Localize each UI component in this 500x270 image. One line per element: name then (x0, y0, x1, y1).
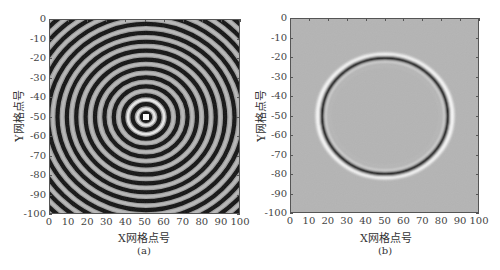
x-tick-label-b: 100 (467, 216, 491, 226)
y-tick-mark (290, 135, 293, 136)
x-tick-mark (106, 19, 107, 22)
y-tick-mark (290, 96, 293, 97)
y-tick-mark (49, 214, 52, 215)
y-tick-mark (237, 195, 240, 196)
y-tick-mark (476, 213, 479, 214)
x-tick-mark (347, 18, 348, 21)
y-tick-label-a: -20 (18, 53, 46, 63)
y-tick-mark (49, 195, 52, 196)
y-tick-mark (290, 194, 293, 195)
x-tick-mark (328, 18, 329, 21)
y-tick-mark (476, 57, 479, 58)
x-tick-mark (479, 18, 480, 21)
y-tick-mark (237, 156, 240, 157)
y-axis-label-b: Y网格点号 (252, 76, 268, 156)
wavefront-ring-image (291, 19, 479, 213)
wavefield-plot-a (49, 19, 240, 214)
y-tick-mark (476, 174, 479, 175)
y-tick-label-b: -10 (259, 33, 287, 43)
y-tick-mark (237, 175, 240, 176)
y-tick-mark (290, 174, 293, 175)
x-tick-mark (164, 19, 165, 22)
x-tick-label-a: 100 (228, 217, 252, 227)
x-tick-mark (183, 19, 184, 22)
x-tick-mark (145, 19, 146, 22)
y-tick-mark (49, 175, 52, 176)
y-tick-label-b: -80 (259, 169, 287, 179)
caption-b: (b) (365, 245, 405, 256)
y-tick-mark (476, 77, 479, 78)
y-tick-label-a: 0 (18, 14, 46, 24)
y-tick-mark (290, 116, 293, 117)
y-tick-label-a: -10 (18, 34, 46, 44)
x-tick-mark (366, 18, 367, 21)
y-tick-mark (476, 116, 479, 117)
y-tick-mark (290, 213, 293, 214)
y-tick-mark (237, 58, 240, 59)
y-tick-mark (237, 78, 240, 79)
y-tick-mark (49, 78, 52, 79)
y-tick-label-b: -20 (259, 52, 287, 62)
y-tick-mark (290, 155, 293, 156)
y-tick-mark (290, 77, 293, 78)
y-tick-mark (237, 214, 240, 215)
y-axis-label-a: Y网格点号 (10, 76, 26, 156)
y-tick-mark (476, 135, 479, 136)
x-tick-mark (240, 19, 241, 22)
y-tick-mark (237, 117, 240, 118)
x-tick-mark (290, 18, 291, 21)
wavefield-plot-b (290, 18, 479, 213)
y-tick-label-b: -90 (259, 189, 287, 199)
y-tick-label-a: -90 (18, 190, 46, 200)
x-tick-mark (68, 19, 69, 22)
y-tick-label-b: 0 (259, 13, 287, 23)
x-tick-mark (221, 19, 222, 22)
y-tick-mark (237, 97, 240, 98)
y-tick-label-a: -80 (18, 170, 46, 180)
x-tick-mark (385, 18, 386, 21)
x-tick-mark (460, 18, 461, 21)
panel-b: 0-10-20-30-40-50-60-70-80-90-10001020304… (250, 0, 500, 270)
x-tick-mark (125, 19, 126, 22)
panel-a: 0-10-20-30-40-50-60-70-80-90-10001020304… (0, 0, 250, 270)
y-tick-mark (49, 97, 52, 98)
y-tick-mark (237, 39, 240, 40)
y-tick-mark (476, 96, 479, 97)
y-tick-mark (476, 38, 479, 39)
y-tick-mark (49, 39, 52, 40)
y-tick-mark (49, 58, 52, 59)
y-tick-mark (49, 117, 52, 118)
y-tick-mark (237, 136, 240, 137)
x-tick-mark (49, 19, 50, 22)
x-tick-mark (87, 19, 88, 22)
x-tick-mark (202, 19, 203, 22)
caption-a: (a) (124, 245, 164, 256)
x-tick-mark (309, 18, 310, 21)
y-tick-mark (476, 194, 479, 195)
x-axis-label-b: X网格点号 (326, 229, 446, 245)
y-tick-mark (49, 156, 52, 157)
y-tick-mark (290, 57, 293, 58)
x-tick-mark (422, 18, 423, 21)
y-tick-mark (49, 136, 52, 137)
x-axis-label-a: X网格点号 (84, 229, 204, 245)
y-tick-mark (290, 38, 293, 39)
x-tick-mark (403, 18, 404, 21)
y-tick-mark (476, 155, 479, 156)
concentric-rings-image (50, 20, 240, 214)
x-tick-mark (441, 18, 442, 21)
